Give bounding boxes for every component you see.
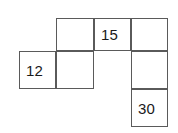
grid-cell[interactable]	[56, 18, 94, 51]
grid-cell[interactable]: 30	[131, 89, 168, 127]
grid-cell-value: 30	[138, 101, 155, 116]
grid-cell[interactable]	[56, 51, 94, 89]
grid-cell-value: 12	[26, 63, 43, 78]
grid-cell[interactable]: 12	[19, 51, 56, 89]
grid-cell[interactable]	[131, 51, 168, 89]
grid-cell[interactable]: 15	[94, 18, 131, 51]
number-grid-figure: 151230	[0, 0, 178, 133]
grid-cell-value: 15	[101, 27, 118, 42]
grid-cell[interactable]	[131, 18, 168, 51]
